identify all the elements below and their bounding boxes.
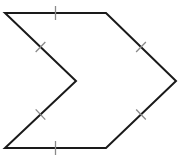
- congruence-tick-marks: [36, 6, 146, 155]
- hexagon-diagram: [0, 0, 186, 159]
- hexagon-outline: [5, 13, 176, 148]
